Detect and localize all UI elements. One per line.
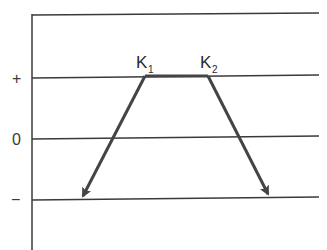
top-line xyxy=(32,13,319,15)
k1-label: K 1 xyxy=(136,53,154,75)
zero-level-line xyxy=(32,136,319,139)
k2-label: K 2 xyxy=(200,53,218,75)
k1-letter: K xyxy=(136,53,148,72)
k1-arrow xyxy=(83,76,145,196)
minus-level-line xyxy=(32,197,319,200)
k2-subscript: 2 xyxy=(212,64,218,75)
k2-letter: K xyxy=(200,53,212,72)
zero-label: 0 xyxy=(12,131,21,148)
k2-arrow xyxy=(208,76,268,194)
minus-label: − xyxy=(11,191,20,208)
k1-subscript: 1 xyxy=(148,64,154,75)
plus-label: + xyxy=(12,70,21,87)
energy-level-diagram: + 0 − K 1 K 2 xyxy=(0,0,327,250)
